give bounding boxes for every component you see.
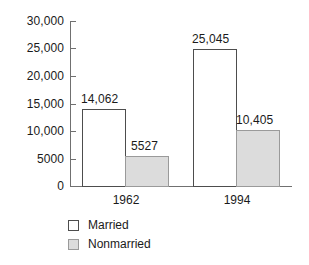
y-axis-label-5000-wrap: 5000 bbox=[6, 153, 64, 165]
legend-swatch-nonmarried-icon bbox=[68, 239, 79, 250]
y-axis-tick-25000 bbox=[70, 48, 76, 49]
bar-married-1994 bbox=[193, 49, 237, 187]
y-axis-label-10000-wrap: 10,000 bbox=[6, 125, 64, 137]
bar-value-married-1962: 14,062 bbox=[81, 93, 118, 105]
y-axis-tick-5000 bbox=[70, 159, 76, 160]
bar-value-nonmarried-1962: 5527 bbox=[131, 140, 158, 152]
legend-item-married: Married bbox=[68, 216, 151, 235]
y-axis-label-15000: 15,000 bbox=[8, 98, 64, 110]
y-axis-tick-15000 bbox=[70, 104, 76, 105]
y-axis-label-15000-wrap: 15,000 bbox=[6, 98, 64, 110]
y-axis-label-25000-wrap: 25,000 bbox=[6, 42, 64, 54]
legend-label-nonmarried: Nonmarried bbox=[88, 238, 151, 251]
chart-legend: Married Nonmarried bbox=[68, 216, 151, 254]
x-axis-label-1962: 1962 bbox=[100, 194, 152, 207]
y-axis-label-20000-wrap: 20,000 bbox=[6, 70, 64, 82]
y-axis-tick-20000 bbox=[70, 76, 76, 77]
legend-label-married: Married bbox=[88, 219, 129, 232]
y-axis-tick-0 bbox=[70, 186, 76, 187]
y-axis-label-30000-wrap: 30,000 bbox=[6, 15, 64, 27]
bar-nonmarried-1994 bbox=[236, 130, 280, 187]
y-axis-label-0-wrap: 0 bbox=[6, 180, 64, 192]
bar-chart: 30,000 25,000 20,000 15,000 10,000 5000 … bbox=[0, 0, 309, 265]
legend-swatch-married-icon bbox=[68, 220, 79, 231]
y-axis-label-0: 0 bbox=[8, 180, 64, 192]
x-axis-label-1994: 1994 bbox=[211, 194, 263, 207]
bar-value-nonmarried-1994: 10,405 bbox=[236, 114, 273, 126]
bar-nonmarried-1962 bbox=[125, 156, 169, 187]
y-axis-label-10000: 10,000 bbox=[8, 125, 64, 137]
y-axis-tick-30000 bbox=[70, 21, 76, 22]
y-axis-label-5000: 5000 bbox=[8, 153, 64, 165]
y-axis-label-20000: 20,000 bbox=[8, 70, 64, 82]
y-axis-label-30000: 30,000 bbox=[8, 15, 64, 27]
bar-married-1962 bbox=[82, 109, 126, 187]
y-axis-label-25000: 25,000 bbox=[8, 42, 64, 54]
y-axis-tick-10000 bbox=[70, 131, 76, 132]
bar-value-married-1994: 25,045 bbox=[192, 33, 229, 45]
legend-item-nonmarried: Nonmarried bbox=[68, 235, 151, 254]
